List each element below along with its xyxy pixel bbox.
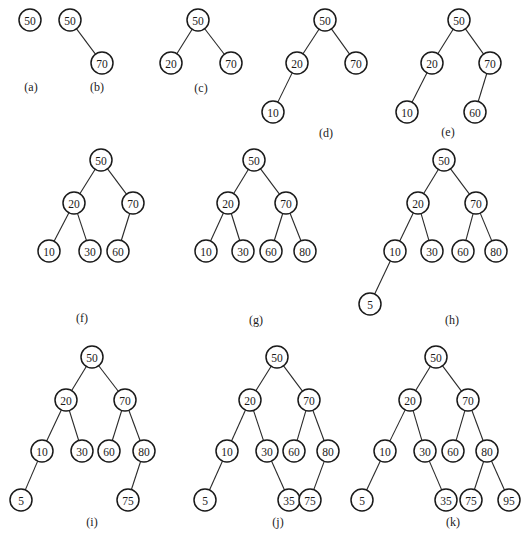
tree-node: 50: [433, 149, 455, 171]
tree-node: 50: [19, 9, 41, 31]
edge-70-60: [297, 411, 306, 441]
node-key: 30: [237, 246, 249, 258]
tree-node: 50: [425, 346, 447, 368]
edge-70-60: [456, 411, 465, 441]
node-key: 50: [319, 15, 331, 27]
node-key: 70: [127, 198, 139, 210]
tree-node: 10: [31, 440, 53, 462]
node-key: 70: [96, 58, 108, 70]
node-key: 50: [192, 15, 204, 27]
edge-20-30: [421, 214, 429, 241]
node-key: 10: [43, 246, 55, 258]
tree-panel-i: 50207010306080575(i): [10, 346, 155, 529]
tree-node: 80: [294, 240, 316, 262]
edge-70-80: [290, 213, 301, 241]
edge-50-70: [205, 29, 225, 55]
node-key: 20: [68, 198, 80, 210]
tree-node: 50: [90, 149, 112, 171]
tree-node: 20: [239, 389, 261, 411]
tree-node: 70: [122, 192, 144, 214]
edge-20-30: [253, 410, 263, 440]
panel-label: (d): [319, 126, 333, 140]
tree-panel-c: 502070(c): [160, 9, 242, 95]
node-key: 30: [84, 246, 96, 258]
tree-node: 35: [435, 489, 457, 511]
node-key: 80: [322, 446, 334, 458]
node-key: 80: [490, 246, 502, 258]
edge-10-5: [25, 461, 37, 490]
edge-70-80: [129, 410, 140, 440]
edge-70-80: [472, 410, 483, 440]
node-key: 60: [265, 246, 277, 258]
tree-panel-f: 502070103060(f): [38, 149, 144, 325]
edge-50-70: [443, 366, 462, 391]
tree-node: 80: [317, 440, 339, 462]
edge-50-20: [303, 29, 319, 54]
tree-node: 70: [465, 192, 487, 214]
tree-node: 70: [91, 52, 113, 74]
node-key: 10: [267, 107, 279, 119]
edges: [210, 366, 325, 490]
tree-node: 10: [38, 240, 60, 262]
edge-50-70: [331, 29, 349, 54]
edge-20-10: [211, 213, 224, 241]
tree-node: 30: [232, 240, 254, 262]
node-key: 30: [426, 246, 438, 258]
bst-diagram: 50(a)5070(b)502070(c)50207010(d)50207010…: [0, 0, 531, 542]
node-key: 50: [453, 15, 465, 27]
edge-20-10: [400, 213, 413, 241]
node-key: 50: [64, 15, 76, 27]
tree-node: 50: [448, 9, 470, 31]
node-key: 30: [419, 446, 431, 458]
node-key: 80: [138, 446, 150, 458]
node-key: 50: [95, 155, 107, 167]
edge-20-30: [231, 213, 239, 240]
node-key: 10: [36, 446, 48, 458]
edges: [25, 366, 140, 490]
node-key: 80: [481, 446, 493, 458]
edge-10-5: [375, 261, 391, 294]
edges: [177, 29, 224, 55]
tree-node: 75: [117, 489, 139, 511]
panel-label: (k): [446, 515, 460, 529]
tree-node: 30: [414, 440, 436, 462]
node-key: 50: [86, 352, 98, 364]
tree-node: 70: [345, 52, 367, 74]
edge-50-20: [234, 169, 249, 193]
tree-node: 20: [399, 389, 421, 411]
edge-20-10: [54, 213, 69, 241]
panel-label: (b): [90, 80, 104, 94]
panel-label: (j): [272, 515, 283, 529]
tree-node: 5: [194, 489, 216, 511]
tree-node: 60: [452, 240, 474, 262]
edge-50-20: [72, 366, 87, 390]
tree-node: 75: [460, 489, 482, 511]
panel-label: (e): [441, 125, 454, 139]
edge-70-60: [466, 214, 473, 241]
edge-50-70: [284, 366, 303, 391]
node-key: 50: [438, 155, 450, 167]
edge-50-20: [416, 366, 431, 390]
node-key: 20: [426, 58, 438, 70]
edges: [375, 169, 492, 294]
edge-30-35: [429, 461, 441, 490]
edge-50-20: [438, 29, 453, 53]
edge-20-10: [412, 73, 427, 102]
tree-node: 20: [407, 192, 429, 214]
tree-node: 10: [195, 240, 217, 262]
edge-70-60: [274, 213, 282, 240]
node-key: 60: [469, 107, 481, 119]
tree-node: 70: [275, 192, 297, 214]
tree-node: 70: [479, 52, 501, 74]
edge-70-60: [478, 74, 487, 102]
edge-50-70: [451, 169, 470, 194]
tree-node: 10: [262, 101, 284, 123]
node-key: 5: [202, 495, 208, 507]
edge-70-80: [480, 213, 492, 241]
tree-node: 20: [421, 52, 443, 74]
tree-panel-j: 5020701030608053575(j): [194, 346, 339, 529]
tree-node: 60: [442, 440, 464, 462]
bst-diagram-canvas: 50(a)5070(b)502070(c)50207010(d)50207010…: [0, 0, 531, 542]
node-key: 60: [447, 446, 459, 458]
tree-node: 60: [107, 240, 129, 262]
